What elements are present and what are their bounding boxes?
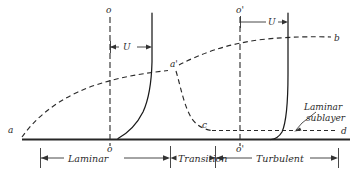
- label-point-b: b: [334, 33, 340, 43]
- label-region-transition: Transition: [178, 153, 227, 164]
- label-point-a-prime: a': [170, 59, 178, 69]
- label-station-o-prime-bottom: o': [236, 144, 244, 154]
- boundary-layer-figure: a a' b c d o o o' o' U U Laminar sublaye…: [0, 0, 356, 171]
- label-point-d: d: [341, 126, 347, 136]
- velocity-arrow-laminar: [110, 41, 152, 53]
- label-laminar-sublayer-line1: Laminar: [303, 102, 343, 112]
- label-laminar-sublayer-line2: sublayer: [306, 113, 346, 123]
- label-station-o-top: o: [106, 5, 112, 15]
- label-velocity-U-laminar: U: [123, 42, 131, 52]
- label-region-turbulent: Turbulent: [256, 153, 304, 164]
- velocity-arrow-turbulent: [240, 16, 288, 28]
- label-region-laminar: Laminar: [67, 153, 110, 164]
- boundary-layer-edge-turbulent: [179, 37, 331, 65]
- label-velocity-U-turbulent: U: [268, 17, 276, 27]
- label-point-c: c: [202, 120, 207, 130]
- label-station-o-prime-top: o': [236, 5, 244, 15]
- diagram-canvas: a a' b c d o o o' o' U U Laminar sublaye…: [0, 0, 356, 171]
- label-point-a: a: [8, 125, 13, 135]
- turbulent-velocity-profile: [271, 13, 288, 140]
